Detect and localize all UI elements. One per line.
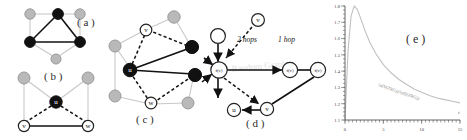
chart-y-tick-label: 1.7	[334, 20, 340, 25]
node-b-center-u-label: u	[54, 98, 58, 106]
node-b-bottom-left-v-label: v	[22, 122, 26, 130]
chart-tick-group: 1.11.21.31.41.51.61.71.8051015	[334, 4, 463, 132]
label-1-hop: 1 hop	[278, 35, 295, 44]
panel-c: v w u ( c )	[100, 0, 210, 140]
node-b-top-right-gray	[82, 72, 94, 84]
panel-b: u v w ( b )	[0, 62, 108, 140]
node-d-right-fv-label: f(v)	[287, 68, 294, 73]
node-d-bottom-u-label: u	[232, 106, 236, 114]
chart-curve-annotation: ln(N(ZRG))/ln(E(ZRG))	[378, 82, 421, 101]
panel-d-watermark: Random Graph	[231, 58, 287, 74]
node-c-gray-top-right	[168, 11, 180, 23]
edge-a-7	[30, 14, 58, 42]
node-d-center-fv-label: f(v)	[216, 68, 223, 73]
chart-x-tick-label: 5	[382, 127, 385, 132]
edge-c-10	[130, 70, 193, 74]
panel-d: Random Graph v f(v) f(v) f(v) u	[196, 0, 336, 140]
node-c-gray-left	[109, 40, 121, 52]
edge-d-4	[202, 74, 212, 82]
chart-y-tick-label: 1.4	[334, 69, 340, 74]
chart-x-tick-label: 10	[419, 127, 424, 132]
node-mid-left-black	[25, 37, 36, 48]
node-top-left-gray	[25, 9, 35, 19]
panel-a: ( a )	[0, 0, 108, 66]
chart-x-tick-label: 0	[344, 127, 347, 132]
edge-d-3	[204, 58, 213, 65]
node-c-u-label: u	[128, 66, 132, 74]
panel-d-graph: Random Graph v f(v) f(v) f(v) u	[196, 0, 336, 140]
chart-x-axis-label: t	[458, 110, 460, 115]
panel-e-chart: 1.11.21.31.41.51.61.71.8051015 t ln(N(ZR…	[328, 0, 467, 140]
panel-e-label: ( e )	[406, 32, 425, 47]
edge-c-12	[148, 30, 188, 46]
chart-y-tick-label: 1.6	[334, 36, 340, 41]
node-c-gray-bottom-right	[182, 97, 194, 109]
label-2-hops: 2 hops	[237, 35, 257, 44]
chart-y-tick-label: 1.1	[334, 118, 340, 123]
node-d-far-right-fv-label: f(v)	[315, 68, 322, 73]
chart-curve	[345, 6, 460, 120]
node-d-top-v-label: v	[256, 16, 260, 24]
node-c-v-label: v	[144, 26, 148, 34]
panel-c-label: ( c )	[136, 113, 154, 125]
edge-d-9	[272, 77, 314, 104]
chart-y-tick-label: 1.2	[334, 102, 340, 107]
chart-y-tick-label: 1.3	[334, 85, 340, 90]
panel-b-label: ( b )	[44, 70, 62, 82]
panel-c-graph: v w u	[100, 0, 210, 140]
node-c-gray-bottom-left	[109, 90, 121, 102]
panel-a-graph	[0, 0, 108, 66]
chart-y-tick-label: 1.5	[334, 53, 340, 58]
node-top-center-black	[53, 9, 64, 20]
chart-plot: 1.11.21.31.41.51.61.71.8051015 t ln(N(ZR…	[328, 0, 467, 140]
figure-root: ( a ) u v w ( b )	[0, 0, 467, 140]
edge-d-7	[224, 78, 259, 104]
panel-a-label: ( a )	[77, 16, 95, 28]
panel-d-label: ( d )	[246, 117, 264, 129]
node-d-source	[211, 29, 226, 44]
chart-y-tick-label: 1.8	[334, 4, 340, 9]
node-b-top-left-gray	[18, 72, 30, 84]
node-d-bottom-v-label: v	[265, 105, 269, 113]
chart-x-tick-label: 15	[458, 127, 463, 132]
edge-c-9	[130, 48, 190, 70]
node-mid-right-black	[75, 37, 86, 48]
